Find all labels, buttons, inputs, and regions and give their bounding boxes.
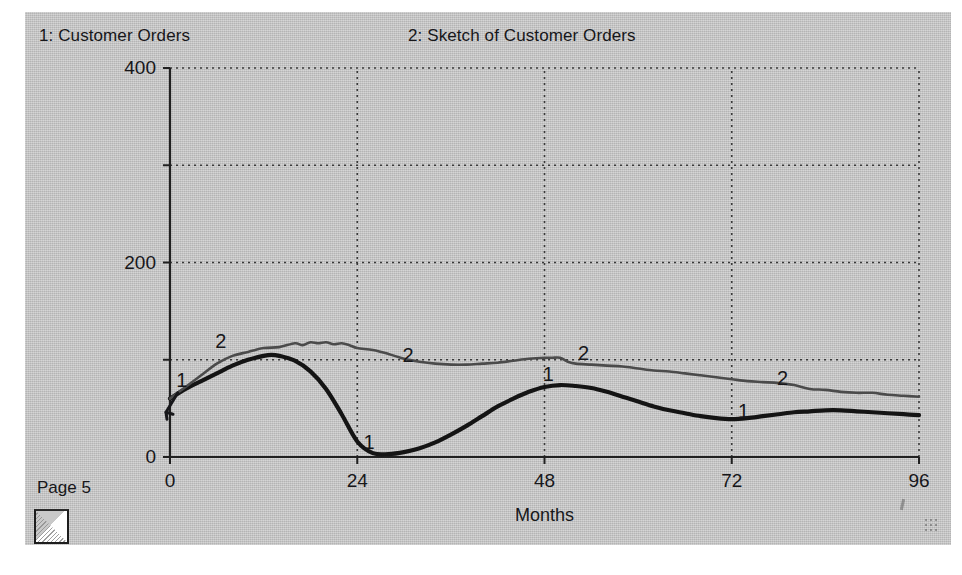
- curve-label-1: 1: [738, 400, 749, 422]
- x-tick-label: 24: [347, 470, 369, 491]
- page-number-label: Page 5: [37, 478, 91, 498]
- scanned-page-screenshot: 1: Customer Orders 2: Sketch of Customer…: [0, 0, 962, 575]
- grip-dots-icon: [925, 519, 941, 535]
- curve-label-2: 2: [402, 344, 413, 366]
- x-axis-title: Months: [515, 505, 574, 525]
- curve-label-1: 1: [543, 363, 554, 385]
- resize-grow-box-icon[interactable]: [34, 509, 69, 544]
- x-tick-label: 48: [534, 470, 555, 491]
- y-tick-label: 400: [124, 57, 156, 78]
- chart-page: 1: Customer Orders 2: Sketch of Customer…: [25, 12, 951, 545]
- x-tick-label: 96: [908, 470, 929, 491]
- curve-label-2: 2: [215, 330, 226, 352]
- y-tick-label: 200: [124, 252, 156, 273]
- line-chart-plot: 0200400024487296Months12121212: [25, 12, 951, 545]
- curve-label-2: 2: [777, 367, 788, 389]
- curve-label-1: 1: [363, 431, 374, 453]
- curve-label-1: 1: [176, 369, 187, 391]
- y-tick-label: 0: [145, 446, 156, 467]
- curve-label-2: 2: [578, 342, 589, 364]
- x-tick-label: 72: [721, 470, 742, 491]
- x-tick-label: 0: [165, 470, 176, 491]
